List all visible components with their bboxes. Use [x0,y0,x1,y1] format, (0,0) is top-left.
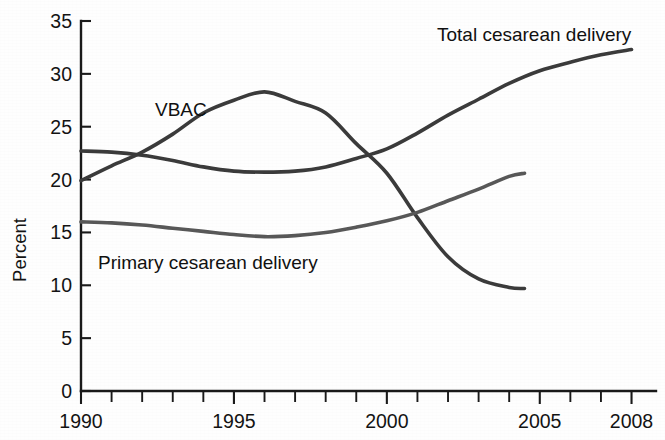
y-tick-label-0: 0 [61,380,72,402]
y-tick-label-35: 35 [50,10,72,32]
x-axis-tick-labels: 19901995200020052008 [59,410,653,432]
axis-group: 05101520253035 19901995200020052008 [50,10,656,432]
y-tick-label-10: 10 [50,274,72,296]
x-tick-label-1995: 1995 [212,410,256,432]
y-axis-ticks [81,21,91,391]
y-axis-tick-labels: 05101520253035 [50,10,72,402]
x-tick-label-2008: 2008 [610,410,653,432]
series-line-primary-cesarean-delivery [81,173,524,236]
x-tick-label-2000: 2000 [365,410,409,432]
series-label-primary-cesarean-delivery: Primary cesarean delivery [98,252,318,273]
line-chart-svg: 05101520253035 19901995200020052008 Perc… [0,0,665,440]
x-axis-ticks [81,391,632,404]
y-tick-label-30: 30 [50,63,72,85]
x-tick-label-2005: 2005 [518,410,562,432]
x-tick-label-1990: 1990 [59,410,103,432]
y-tick-label-25: 25 [50,116,72,138]
series-label-vbac: VBAC [155,99,207,120]
series-annotations: Total cesarean deliveryVBACPrimary cesar… [98,24,632,273]
y-tick-label-20: 20 [50,169,72,191]
y-tick-label-15: 15 [50,221,72,243]
chart-figure: 05101520253035 19901995200020052008 Perc… [0,0,665,440]
series-label-total-cesarean-delivery: Total cesarean delivery [437,24,632,45]
y-axis-title: Percent [9,218,30,282]
y-tick-label-5: 5 [61,327,72,349]
